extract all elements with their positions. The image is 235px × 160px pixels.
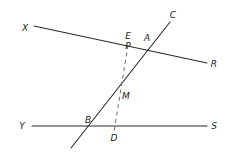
point-label-X: X (21, 23, 29, 33)
point-label-P: P (125, 41, 131, 51)
geometry-canvas: X C E P A R M Y B D S (0, 0, 235, 160)
geometry-diagram: X C E P A R M Y B D S (0, 0, 235, 160)
point-label-A: A (143, 33, 150, 43)
point-label-C: C (170, 10, 177, 20)
point-label-S: S (211, 121, 217, 131)
line-PD-dashed (114, 45, 128, 132)
segments-group (32, 22, 207, 148)
point-label-R: R (211, 59, 217, 69)
line-XR (34, 26, 207, 63)
point-label-Y: Y (19, 121, 26, 131)
point-label-D: D (111, 133, 118, 143)
point-label-M: M (122, 91, 130, 101)
point-label-B: B (85, 115, 91, 125)
line-CB (71, 22, 170, 148)
point-label-E: E (125, 31, 131, 41)
